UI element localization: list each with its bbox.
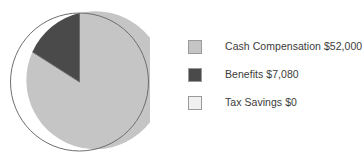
legend-label-cash-compensation: Cash Compensation $52,000 xyxy=(225,40,362,53)
cash-compensation-swatch xyxy=(188,40,202,54)
legend-item-tax-savings[interactable]: Tax Savings $0 xyxy=(188,95,358,110)
legend-label-benefits: Benefits $7,080 xyxy=(225,68,299,81)
legend-item-benefits[interactable]: Benefits $7,080 xyxy=(188,67,358,82)
pie-slice-cash-compensation[interactable] xyxy=(26,11,150,149)
pie-slices xyxy=(26,11,150,149)
legend-label-tax-savings: Tax Savings $0 xyxy=(225,96,297,109)
chart-legend: Cash Compensation $52,000 Benefits $7,08… xyxy=(188,39,358,123)
benefits-swatch xyxy=(188,68,202,82)
pie-chart-svg xyxy=(10,11,150,153)
tax-savings-swatch xyxy=(188,96,202,110)
pie-chart-area xyxy=(10,11,150,153)
legend-item-cash-compensation[interactable]: Cash Compensation $52,000 xyxy=(188,39,358,54)
